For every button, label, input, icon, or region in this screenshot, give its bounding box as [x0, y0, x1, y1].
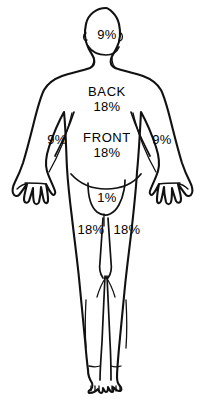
label-right-leg-percentage: 18% — [110, 223, 144, 236]
label-groin-percentage: 1% — [91, 191, 123, 204]
label-back-word: BACK — [80, 85, 134, 98]
label-back-percentage: 18% — [88, 100, 126, 113]
label-front-word: FRONT — [76, 131, 138, 144]
label-left-arm-percentage: 9% — [41, 133, 73, 146]
label-head-percentage: 9% — [88, 28, 126, 41]
label-front-percentage: 18% — [88, 146, 126, 159]
label-right-arm-percentage: 9% — [146, 133, 178, 146]
calf-right-line — [126, 300, 127, 348]
rule-of-nines-diagram: 9% BACK 18% FRONT 18% 9% 9% 1% 18% 18% — [0, 0, 213, 401]
calf-left-line — [85, 300, 86, 348]
label-left-leg-percentage: 18% — [74, 223, 108, 236]
